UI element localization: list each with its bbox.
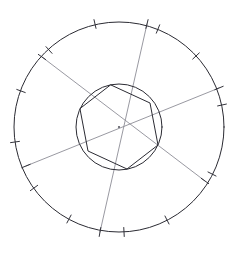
- endpoint-tick-c2: [22, 164, 30, 167]
- figure-root: [0, 0, 239, 254]
- tick-9: [30, 185, 37, 190]
- endpoint-tick-b1: [146, 20, 148, 29]
- outer-tick-marks-group: [11, 20, 227, 237]
- tick-1: [94, 20, 96, 29]
- chords-group: [26, 24, 219, 232]
- chord-c: [26, 88, 219, 166]
- endpoint-tick-b2: [99, 228, 101, 237]
- chord-b: [100, 24, 147, 232]
- endpoint-tick-a2: [201, 178, 208, 183]
- center-point: [118, 126, 120, 128]
- geometry-canvas: [0, 0, 239, 254]
- chord-a: [42, 57, 205, 181]
- tick-10: [11, 141, 20, 142]
